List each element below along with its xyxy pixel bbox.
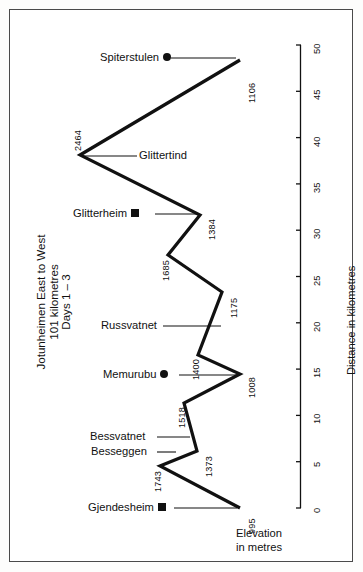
x-tick-label-20: 20 (312, 321, 322, 331)
hut-square-icon (131, 209, 139, 217)
hut-circle-icon-2 (160, 370, 168, 378)
elevation-label-1518: 1518 (177, 407, 187, 428)
x-tick-label-35: 35 (312, 183, 322, 193)
elevation-label-1685: 1685 (161, 260, 171, 281)
hut-square-icon-2 (158, 503, 166, 511)
x-tick-label-0: 0 (312, 508, 322, 513)
elevation-label-1384: 1384 (207, 219, 217, 240)
annotation-glitterheim[interactable]: Glitterheim (73, 207, 139, 219)
annotation-besseggen[interactable]: Besseggen (91, 445, 147, 457)
annotation-gjendesheim[interactable]: Gjendesheim (88, 501, 166, 513)
annotation-memurubu-label: Memurubu (103, 368, 156, 380)
annotation-glittertind-label: Glittertind (139, 149, 187, 161)
hut-circle-icon (163, 53, 171, 61)
elevation-label-2464: 2464 (73, 130, 83, 151)
elevation-label-1743: 1743 (153, 471, 163, 492)
annotation-glitterheim-label: Glitterheim (73, 207, 127, 219)
x-tick-label-15: 15 (312, 368, 322, 378)
elevation-label-995: 995 (247, 518, 257, 534)
annotation-spiterstulen[interactable]: Spiterstulen (100, 51, 171, 63)
y-axis-title: Elevation in metres (236, 526, 282, 554)
x-tick-label-40: 40 (312, 136, 322, 146)
y-axis-title-line1: Elevation (236, 526, 282, 540)
annotation-spiterstulen-label: Spiterstulen (100, 51, 159, 63)
x-tick-label-30: 30 (312, 229, 322, 239)
x-tick-label-10: 10 (312, 414, 322, 424)
elevation-label-1106: 1106 (247, 83, 257, 103)
x-axis-title: Distance in kilometres (345, 266, 357, 375)
annotation-memurubu[interactable]: Memurubu (103, 368, 168, 380)
chart-subtitle-line2: Days 1 – 3 (59, 222, 74, 382)
elevation-label-1400: 1400 (191, 359, 201, 380)
annotation-besseggen-label: Besseggen (91, 445, 147, 457)
elevation-label-1008: 1008 (247, 377, 257, 398)
y-axis-title-line2: in metres (236, 540, 282, 554)
x-tick-label-25: 25 (312, 275, 322, 285)
annotation-gjendesheim-label: Gjendesheim (88, 501, 154, 513)
elevation-label-1373: 1373 (204, 456, 214, 477)
elevation-label-1175: 1175 (229, 298, 239, 318)
annotation-bessvatnet[interactable]: Bessvatnet (90, 430, 145, 442)
annotation-russvatnet[interactable]: Russvatnet (101, 319, 157, 331)
chart-subtitle-2: Days 1 – 3 (59, 222, 74, 382)
x-tick-label-50: 50 (312, 44, 322, 54)
x-tick-label-5: 5 (312, 462, 322, 467)
annotation-glittertind[interactable]: Glittertind (139, 149, 187, 161)
annotation-russvatnet-label: Russvatnet (101, 319, 157, 331)
x-tick-label-45: 45 (312, 90, 322, 100)
annotation-bessvatnet-label: Bessvatnet (90, 430, 145, 442)
